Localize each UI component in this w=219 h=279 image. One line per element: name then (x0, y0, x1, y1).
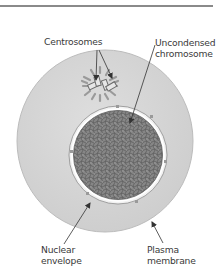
label-plasma-membrane: Plasma membrane (147, 244, 196, 266)
plasma-membrane-arrow (152, 222, 163, 243)
label-chromosome-line1: Uncondensed (155, 37, 215, 48)
label-nuclear-envelope: Nuclear envelope (41, 244, 82, 266)
label-centrosomes-text: Centrosomes (44, 36, 102, 47)
label-plasma-line1: Plasma (147, 244, 196, 255)
label-nuclear-line1: Nuclear (41, 244, 82, 255)
label-chromosome-line2: chromosome (155, 48, 215, 59)
label-uncondensed-chromosome: Uncondensed chromosome (155, 37, 215, 59)
label-plasma-line2: membrane (147, 255, 196, 266)
label-centrosomes: Centrosomes (44, 36, 102, 47)
label-nuclear-line2: envelope (41, 255, 82, 266)
nucleus (69, 105, 167, 204)
